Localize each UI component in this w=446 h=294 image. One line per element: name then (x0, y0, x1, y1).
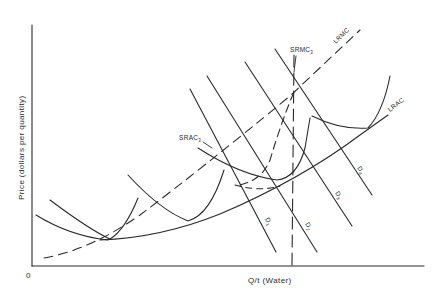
srac-4-curve (312, 76, 390, 128)
demand-d3-line (245, 62, 352, 226)
srac-3-leader (203, 142, 212, 148)
lrac-curve (100, 115, 388, 240)
srmc-3-label: SRMC3 (290, 46, 313, 55)
srmc-3-curve (292, 55, 294, 266)
cost-curves-diagram: Price (dollars per quantity) Q/t (Water)… (0, 0, 446, 294)
srac-1-curve (50, 198, 138, 239)
lrac-curve-left (36, 215, 108, 240)
demand-d1-line (190, 89, 276, 252)
lrac-label: LRAC (386, 96, 405, 113)
origin-label: 0 (26, 271, 31, 280)
x-axis-label: Q/t (Water) (248, 276, 292, 285)
y-axis-label: Price (dollars per quantity) (17, 95, 26, 200)
demand-d1-label: D1 (262, 216, 274, 227)
srac-3-label: SRAC3 (179, 134, 201, 143)
